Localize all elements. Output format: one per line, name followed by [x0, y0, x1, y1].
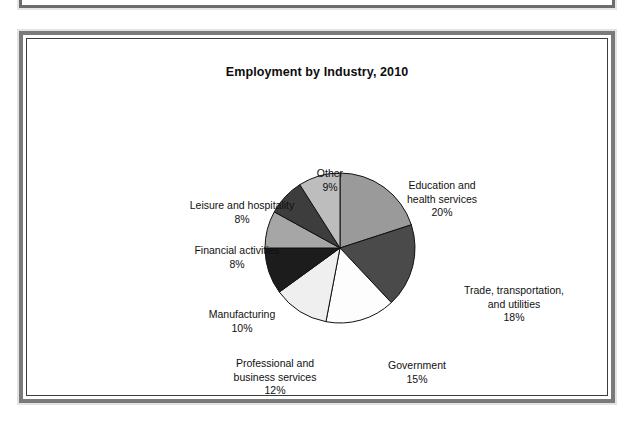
- pie-label-financial-activities-pct: 8%: [167, 258, 307, 272]
- pie-label-professional-pct: 12%: [205, 384, 345, 398]
- pie-label-education-pct: 20%: [377, 206, 507, 220]
- pie-label-manufacturing: Manufacturing 10%: [177, 308, 307, 335]
- partial-frame-above: [19, 0, 615, 8]
- pie-label-leisure-and-hospitality-text: Leisure and hospitality: [190, 199, 294, 211]
- pie-label-trade-line1: Trade, transportation,: [464, 284, 564, 296]
- pie-label-trade-transportation-and-utilities: Trade, transportation, and utilities 18%: [435, 284, 593, 325]
- pie-label-government-pct: 15%: [357, 373, 477, 387]
- pie-label-professional-line2: business services: [205, 371, 345, 385]
- pie-label-financial-activities-text: Financial activities: [194, 244, 279, 256]
- pie-label-manufacturing-text: Manufacturing: [209, 308, 276, 320]
- pie-label-professional-line1: Professional and: [236, 357, 314, 369]
- pie-label-trade-pct: 18%: [435, 311, 593, 325]
- pie-label-other: Other 9%: [271, 167, 389, 194]
- pie-label-government-text: Government: [388, 359, 446, 371]
- pie-label-leisure-and-hospitality: Leisure and hospitality 8%: [165, 199, 319, 226]
- pie-label-financial-activities: Financial activities 8%: [167, 244, 307, 271]
- pie-label-education-and-health-services: Education and health services 20%: [377, 179, 507, 220]
- pie-label-government: Government 15%: [357, 359, 477, 386]
- slide-frame: Employment by Industry, 2010 Other 9% Le…: [19, 31, 615, 403]
- pie-label-other-pct: 9%: [271, 181, 389, 195]
- pie-label-education-line2: health services: [377, 193, 507, 207]
- pie-label-leisure-and-hospitality-pct: 8%: [165, 213, 319, 227]
- pie-label-education-line1: Education and: [408, 179, 475, 191]
- slide-inner-border: Employment by Industry, 2010 Other 9% Le…: [26, 38, 608, 396]
- pie-chart-svg: [27, 39, 623, 403]
- pie-label-manufacturing-pct: 10%: [177, 322, 307, 336]
- pie-label-other-text: Other: [317, 167, 343, 179]
- pie-label-trade-line2: and utilities: [435, 298, 593, 312]
- pie-label-professional-and-business-services: Professional and business services 12%: [205, 357, 345, 398]
